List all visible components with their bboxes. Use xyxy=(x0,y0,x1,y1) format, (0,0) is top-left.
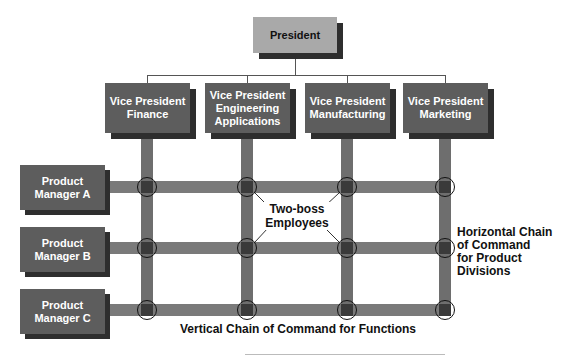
two-boss-label: Two-boss Employees xyxy=(262,202,332,230)
two-boss-pointers xyxy=(0,0,566,356)
horizontal-chain-label: Horizontal Chain of Command for Product … xyxy=(457,226,566,278)
bottom-rule xyxy=(245,354,445,355)
vertical-chain-label: Vertical Chain of Command for Functions xyxy=(180,322,416,336)
